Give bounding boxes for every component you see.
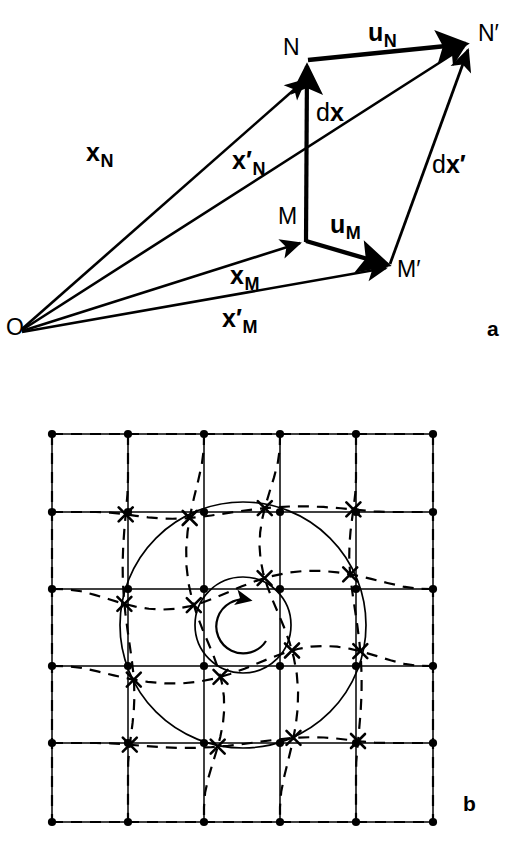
grid-node-dot — [200, 818, 208, 826]
label-O: O — [6, 316, 24, 339]
grid-node-dot — [276, 739, 284, 747]
label-u-M: uM — [330, 212, 361, 242]
grid-node-dot — [352, 818, 360, 826]
label-Np: N′ — [478, 22, 499, 45]
grid-node-dot — [124, 818, 132, 826]
deformed-grid-line — [260, 434, 299, 822]
grid-node-dot — [429, 662, 437, 670]
outer-circle — [120, 502, 366, 748]
grid-node-dot — [200, 508, 208, 516]
grid-node-dot — [200, 585, 208, 593]
label-x-N: xN — [86, 140, 113, 170]
figure-canvas — [0, 0, 526, 848]
grid-node-dot — [48, 739, 56, 747]
grid-node-dot — [352, 585, 360, 593]
label-M: M — [278, 205, 297, 228]
grid-node-dot — [124, 585, 132, 593]
panel-b-tag: b — [463, 793, 476, 814]
label-dx: dx — [316, 100, 344, 125]
reference-grid-nodes — [48, 430, 437, 826]
label-Mp: M′ — [397, 258, 420, 281]
grid-node-cross — [285, 644, 299, 658]
grid-node-dot — [124, 662, 132, 670]
rotation-arrow — [216, 599, 266, 653]
grid-node-dot — [48, 662, 56, 670]
grid-node-dot — [200, 662, 208, 670]
grid-node-dot — [352, 662, 360, 670]
inner-circle — [195, 577, 291, 673]
arrow-x-N — [22, 80, 305, 329]
grid-node-dot — [276, 662, 284, 670]
grid-node-dot — [429, 739, 437, 747]
deformed-grid-lines — [52, 434, 433, 822]
deformed-grid-line — [52, 646, 433, 684]
panel-b-diagram — [48, 430, 437, 826]
arrow-x-M-prime — [22, 268, 386, 332]
label-dx-prime: dx′ — [432, 152, 466, 177]
grid-node-dot — [48, 430, 56, 438]
grid-node-dot — [429, 430, 437, 438]
grid-node-dot — [429, 508, 437, 516]
label-N: N — [283, 36, 300, 59]
label-x-M: xM — [230, 263, 259, 293]
grid-node-dot — [276, 508, 284, 516]
label-x-M-prime: x′M — [222, 306, 257, 336]
grid-node-dot — [276, 818, 284, 826]
grid-node-dot — [124, 430, 132, 438]
grid-node-dot — [48, 585, 56, 593]
reference-grid-lines — [52, 434, 433, 822]
arrow-u-M — [306, 241, 388, 265]
grid-node-dot — [276, 585, 284, 593]
label-x-N-prime: x′N — [232, 148, 265, 178]
arrow-dx — [306, 66, 307, 242]
grid-node-dot — [48, 818, 56, 826]
deformed-grid-line — [186, 434, 224, 822]
grid-node-dot — [429, 818, 437, 826]
grid-node-dot — [200, 739, 208, 747]
panel-a-tag: a — [487, 318, 499, 339]
label-u-N: uN — [368, 20, 397, 50]
grid-node-cross — [214, 670, 228, 684]
grid-node-dot — [48, 508, 56, 516]
grid-node-dot — [352, 430, 360, 438]
grid-node-dot — [200, 430, 208, 438]
grid-node-dot — [276, 430, 284, 438]
grid-node-dot — [429, 585, 437, 593]
